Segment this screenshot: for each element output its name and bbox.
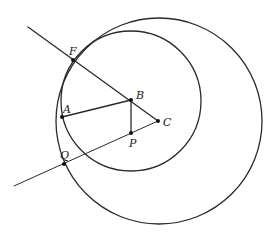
point-f-dot [71,58,75,62]
geometry-diagram: FABCPQ [0,0,274,236]
point-f-label: F [68,45,77,58]
point-b-label: B [135,89,144,102]
segment-AB [62,100,131,117]
point-b-dot [129,98,133,102]
ray-through-Q-to-C [14,121,158,186]
point-a-label: A [62,103,71,116]
point-c-dot [156,119,160,123]
point-q-dot [62,162,66,166]
point-p-dot [129,131,133,135]
point-c-label: C [163,116,172,129]
point-q-label: Q [60,149,69,162]
point-p-label: P [128,137,137,150]
